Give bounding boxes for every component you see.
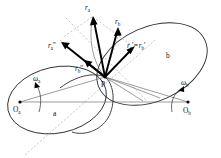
label-origin-b-sub: b (188, 110, 191, 116)
figure-canvas: ra rb ra'' rb'' ra'=rb' P Oa Ob ωa (0, 0, 221, 158)
ray-ob-to-p (105, 77, 188, 102)
label-origin-a: Oa (13, 105, 21, 115)
label-omega-a-sub: a (38, 78, 41, 84)
label-origin-b: Ob (183, 106, 191, 116)
label-r-b-dprime-marks: '' (80, 65, 83, 73)
label-eq-rhs-prime: ' (144, 42, 145, 50)
label-r-a: ra (85, 4, 91, 13)
label-omega-b: ωb (181, 79, 189, 88)
label-r-b-sub: b (118, 21, 121, 27)
construction-line-main (25, 40, 155, 155)
origin-b-dot (186, 100, 189, 103)
ray-p-lower-right-2 (105, 77, 143, 101)
origin-a-dot (18, 100, 21, 103)
label-r-a-dprime-marks: '' (53, 42, 56, 50)
label-origin-a-sub: a (18, 109, 21, 115)
label-omega-a: ωa (33, 75, 41, 84)
label-r-a-double-prime: ra'' (48, 42, 56, 51)
contact-point-dot (104, 76, 107, 79)
label-r-b: rb (115, 18, 121, 27)
guide-line-ra-upper (62, 17, 92, 38)
label-body-a: a (53, 109, 57, 118)
contact-arc-a (60, 75, 113, 134)
label-point-p: P (101, 80, 105, 89)
label-r-prime-equality: ra'=rb' (127, 42, 145, 51)
label-r-b-double-prime: rb'' (75, 65, 83, 74)
label-body-b: b (166, 51, 170, 60)
kinematics-figure: ra rb ra'' rb'' ra'=rb' P Oa Ob ωa (0, 0, 221, 158)
label-eq-sign: = (134, 42, 138, 50)
label-r-a-sub: a (88, 7, 91, 13)
construction-line-secondary (66, 18, 146, 100)
